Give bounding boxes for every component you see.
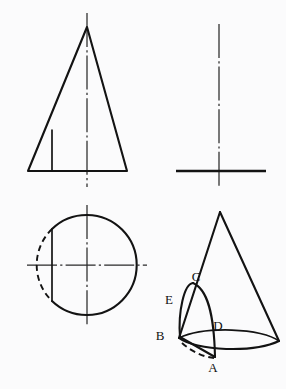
side-view <box>176 24 266 187</box>
front-view <box>28 13 127 187</box>
label-e: E <box>165 292 173 307</box>
cone-right-slant <box>220 212 279 341</box>
label-c: C <box>192 269 201 284</box>
label-d: D <box>213 318 222 333</box>
label-a: A <box>208 360 218 375</box>
technical-drawing-canvas: A B C D E <box>0 0 286 389</box>
drawing-sheet: A B C D E <box>0 0 286 389</box>
top-view <box>27 205 147 325</box>
label-b: B <box>156 328 165 343</box>
pictorial-view <box>179 212 279 358</box>
cone-base-front-arc <box>179 338 279 349</box>
cone-base-back-arc <box>179 330 279 341</box>
front-view-triangle-outline <box>28 27 127 171</box>
